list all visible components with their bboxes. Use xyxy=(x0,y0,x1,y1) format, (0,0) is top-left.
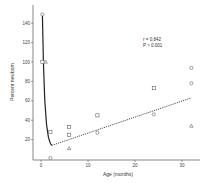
data-points xyxy=(41,13,193,160)
svg-text:20: 20 xyxy=(132,163,138,168)
svg-text:120: 120 xyxy=(22,40,30,45)
svg-text:100: 100 xyxy=(22,60,30,65)
svg-text:140: 140 xyxy=(22,21,30,26)
fit-curves xyxy=(42,15,191,146)
y-ticks: 20406080100120140 xyxy=(22,21,33,142)
svg-text:0: 0 xyxy=(40,163,43,168)
chart: 20406080100120140 0102030 Percent newbor… xyxy=(0,0,211,191)
svg-text:40: 40 xyxy=(25,118,31,123)
x-ticks: 0102030 xyxy=(40,160,185,168)
y-axis-label: Percent newborn xyxy=(9,63,15,101)
svg-text:80: 80 xyxy=(25,79,31,84)
stat-p: P > 0.001 xyxy=(143,43,163,48)
svg-text:20: 20 xyxy=(25,137,31,142)
x-axis-label: Age (months) xyxy=(103,171,133,177)
svg-text:30: 30 xyxy=(179,163,185,168)
svg-text:10: 10 xyxy=(85,163,91,168)
svg-text:60: 60 xyxy=(25,98,31,103)
stat-r: r = 0.842 xyxy=(143,37,161,42)
